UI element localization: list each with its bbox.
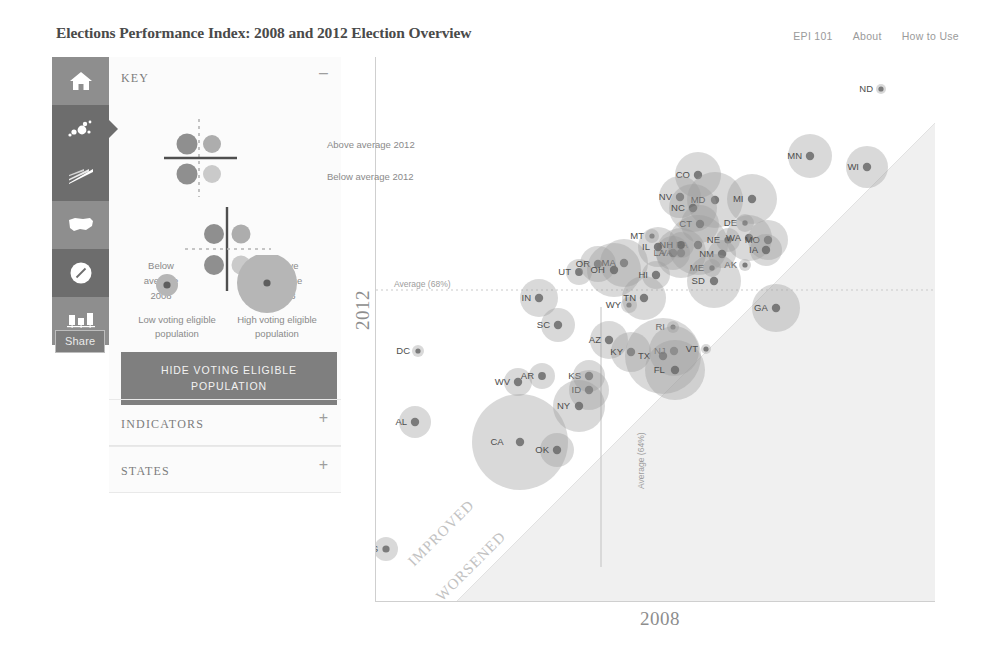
bubble-label: TN — [623, 292, 636, 303]
bubble-ms[interactable]: MS — [376, 537, 398, 561]
chart-canvas: NDMNWICONVMDMINCCTDEMTPANEWAMOVANMIAAKME… — [376, 57, 935, 602]
bubble-label: VT — [686, 343, 698, 354]
key-panel-title: KEY — [121, 71, 149, 85]
nav-link-epi-101[interactable]: EPI 101 — [793, 30, 832, 42]
hide-voting-eligible-population-button[interactable]: HIDE VOTING ELIGIBLE POPULATION — [121, 352, 337, 405]
bubble-label: CA — [490, 436, 504, 447]
bubble-mn[interactable]: MN — [787, 134, 832, 178]
bubble-label: IA — [749, 244, 759, 255]
bubble-label: IL — [642, 241, 650, 252]
bubble-label: MS — [376, 543, 378, 554]
key-quadrant-legend-vertical — [159, 117, 339, 199]
y-axis-label: 2012 — [352, 290, 374, 330]
sidebar-item-bubble-chart[interactable] — [52, 105, 109, 153]
side-panel: KEY – Above average 2012 Below average 2… — [109, 57, 341, 493]
bubble-label: AR — [521, 370, 534, 381]
states-panel-header[interactable]: STATES + — [109, 446, 341, 493]
us-map-icon — [66, 215, 96, 235]
average-2008-label: Average (64%) — [636, 432, 646, 489]
bar-chart-icon — [66, 311, 96, 331]
nav-link-about[interactable]: About — [853, 30, 882, 42]
bubble-label: DC — [396, 345, 410, 356]
indicators-expand-toggle[interactable]: + — [319, 411, 328, 425]
bubble-chart[interactable]: NDMNWICONVMDMINCCTDEMTPANEWAMOVANMIAAKME… — [375, 57, 935, 602]
sidebar-item-us-map[interactable] — [52, 201, 109, 249]
bubble-label: OH — [591, 264, 605, 275]
bubble-label: AL — [395, 416, 407, 427]
bubble-sd[interactable]: SD — [687, 254, 741, 308]
bubble-label: MN — [787, 150, 802, 161]
bubble-label: MI — [733, 193, 744, 204]
dial-gauge-icon — [68, 260, 94, 286]
sidebar-item-dial-gauge[interactable] — [52, 249, 109, 297]
key-label-below-average-2012: Below average 2012 — [327, 171, 414, 182]
average-2012-label: Average (68%) — [394, 279, 451, 289]
bubble-label: ND — [859, 83, 873, 94]
indicators-panel-title: INDICATORS — [121, 417, 204, 431]
top-navigation: EPI 101 About How to Use — [793, 30, 959, 42]
bubble-label: HI — [639, 269, 649, 280]
bubble-label: WV — [495, 376, 511, 387]
bubble-label: NC — [671, 202, 685, 213]
x-axis-label: 2008 — [640, 608, 680, 630]
home-icon — [68, 69, 94, 93]
bubble-dc[interactable]: DC — [396, 345, 424, 357]
share-button[interactable]: Share — [55, 330, 105, 353]
bubble-label: KY — [610, 346, 623, 357]
icon-rail — [52, 57, 109, 345]
page-title: Elections Performance Index: 2008 and 20… — [56, 24, 471, 42]
bubble-label: WY — [606, 299, 622, 310]
bubble-label: IN — [522, 292, 532, 303]
bubble-chart-icon — [67, 118, 95, 140]
indicators-panel-header[interactable]: INDICATORS + — [109, 399, 341, 446]
bubble-label: WI — [847, 161, 859, 172]
bubble-ga[interactable]: GA — [752, 284, 800, 332]
bubble-label: SC — [537, 319, 550, 330]
nav-link-how-to-use[interactable]: How to Use — [902, 30, 959, 42]
bubble-il[interactable]: IL — [638, 227, 678, 267]
key-panel-header[interactable]: KEY – — [109, 57, 341, 95]
bubble-nd[interactable]: ND — [859, 83, 886, 94]
bubble-label: GA — [754, 302, 768, 313]
key-label-above-average-2012: Above average 2012 — [327, 139, 415, 150]
slope-chart-icon — [67, 166, 95, 188]
key-label-low-vep: Low voting eligible population — [131, 313, 223, 341]
sidebar-item-home[interactable] — [52, 57, 109, 105]
key-panel-collapse-toggle[interactable]: – — [319, 66, 328, 80]
states-expand-toggle[interactable]: + — [319, 458, 328, 472]
bubble-al[interactable]: AL — [395, 406, 431, 438]
bubble-wi[interactable]: WI — [846, 146, 888, 188]
bubble-label: AZ — [589, 334, 601, 345]
bubble-label: OK — [535, 444, 549, 455]
key-label-high-vep: High voting eligible population — [229, 313, 325, 341]
bubble-label: FL — [654, 364, 665, 375]
key-panel-body: Above average 2012 Below average 2012 Be… — [109, 95, 341, 399]
bubble-label: SD — [692, 275, 705, 286]
sidebar-item-slope-chart[interactable] — [52, 153, 109, 201]
states-panel-title: STATES — [121, 464, 170, 478]
bubble-label: NY — [557, 400, 571, 411]
bubble-label: UT — [558, 266, 571, 277]
